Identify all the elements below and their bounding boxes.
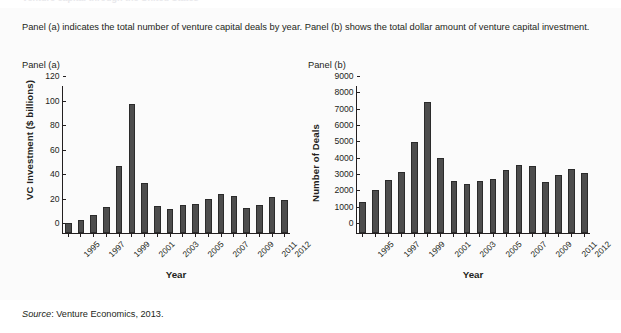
bar: [129, 104, 136, 233]
chart-b-bars: [357, 86, 590, 233]
bar: [256, 205, 263, 233]
bar: [116, 166, 123, 233]
bar: [542, 182, 549, 233]
chart-a-x-axis-title: Year: [62, 269, 290, 280]
x-tick-label: 2005: [503, 239, 523, 259]
y-tick-label: 4000: [334, 153, 357, 163]
y-tick-label: 1000: [334, 202, 357, 212]
panel-a-label: Panel (a): [22, 60, 60, 70]
bar: [516, 165, 523, 233]
chart-a-bars: [63, 86, 290, 233]
y-tick-label: 3000: [334, 169, 357, 179]
panel-b-label: Panel (b): [308, 60, 346, 70]
chart-b-y-axis-title: Number of Deals: [310, 104, 322, 222]
chart-panel-b: Number of Deals 010002000300040005000600…: [308, 86, 598, 286]
bar: [78, 220, 85, 233]
x-tick-label: 2007: [528, 239, 548, 259]
bar: [398, 172, 405, 233]
y-tick-mark: [357, 76, 360, 77]
x-tick-label: 1999: [427, 239, 447, 259]
bar: [167, 209, 174, 233]
x-tick-label: 2005: [206, 239, 226, 259]
x-tick-label: 2009: [255, 239, 275, 259]
bar: [269, 197, 276, 233]
bar: [65, 223, 72, 233]
bar: [218, 194, 225, 233]
y-tick-label: 20: [50, 194, 63, 204]
chart-b-plot-area: 0100020003000400050006000700080009000 19…: [356, 86, 590, 234]
x-tick-label: 2001: [156, 239, 176, 259]
y-tick-label: 9000: [334, 71, 357, 81]
cropped-heading-text: Venture capital through the United State…: [22, 0, 199, 3]
chart-a-x-labels: 1995199719992001200320052007200920112012: [63, 233, 290, 267]
y-tick-label: 100: [45, 96, 63, 106]
chart-b-x-labels: 1995199719992001200320052007200920112012: [357, 233, 590, 267]
source-line: Source: Venture Economics, 2013.: [22, 309, 163, 319]
bar: [477, 181, 484, 233]
y-tick-label: 0: [349, 218, 357, 228]
y-tick-label: 7000: [334, 104, 357, 114]
figure-box: Panel (a) indicates the total number of …: [0, 8, 621, 300]
y-tick-label: 120: [45, 71, 63, 81]
bar: [568, 169, 575, 233]
cropped-heading-strip: Venture capital through the United State…: [0, 0, 621, 8]
x-tick-label: 2007: [230, 239, 250, 259]
bar: [411, 142, 418, 233]
y-tick-label: 6000: [334, 120, 357, 130]
x-tick-label: 2003: [181, 239, 201, 259]
source-text: : Venture Economics, 2013.: [51, 309, 163, 319]
bar: [281, 200, 288, 233]
bar: [581, 173, 588, 233]
y-tick-mark: [63, 76, 66, 77]
bar: [464, 184, 471, 233]
source-word: Source: [22, 309, 51, 319]
bar: [103, 207, 110, 233]
bar: [490, 179, 497, 233]
x-tick-label: 1995: [376, 239, 396, 259]
x-tick-label: 1997: [401, 239, 421, 259]
bar: [243, 208, 250, 233]
x-tick-label: 2009: [554, 239, 574, 259]
figure-caption: Panel (a) indicates the total number of …: [22, 20, 597, 34]
chart-a-plot-area: 020406080100120 199519971999200120032005…: [62, 86, 290, 234]
bar: [180, 205, 187, 233]
bar: [437, 158, 444, 233]
bar: [503, 170, 510, 233]
bar: [424, 102, 431, 233]
bar: [192, 204, 199, 233]
x-tick-label: 1995: [82, 239, 102, 259]
y-tick-label: 60: [50, 145, 63, 155]
bar: [154, 206, 161, 233]
bar: [231, 196, 238, 233]
chart-panel-a: VC Investment ($ billions) 0204060801001…: [22, 86, 300, 286]
x-tick-label: 2001: [452, 239, 472, 259]
y-tick-label: 5000: [334, 136, 357, 146]
x-tick-label: 2003: [478, 239, 498, 259]
bar: [529, 166, 536, 233]
bar: [359, 202, 366, 233]
bar: [385, 180, 392, 233]
bar: [141, 183, 148, 233]
bar: [205, 199, 212, 233]
x-tick-label: 1997: [106, 239, 126, 259]
chart-a-y-axis-title: VC Investment ($ billions): [24, 70, 36, 210]
y-tick-label: 2000: [334, 185, 357, 195]
bar: [90, 215, 97, 233]
bar: [451, 181, 458, 233]
x-tick-label: 1999: [131, 239, 151, 259]
bar: [555, 175, 562, 233]
chart-b-x-axis-title: Year: [356, 269, 590, 280]
y-tick-label: 40: [50, 169, 63, 179]
y-tick-label: 8000: [334, 87, 357, 97]
y-tick-label: 0: [55, 218, 63, 228]
bar: [372, 190, 379, 233]
y-tick-label: 80: [50, 120, 63, 130]
